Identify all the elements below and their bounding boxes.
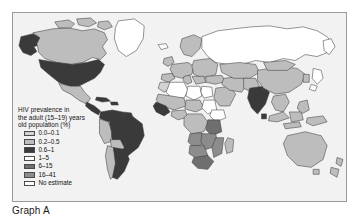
region-russia (202, 26, 333, 65)
legend-label-1: 0.2–0.5 (38, 139, 59, 146)
region-canada-arctic-1 (55, 20, 75, 28)
legend-item-0: 0.0–0.1 (24, 130, 118, 138)
legend-label-6: No estimate (38, 180, 72, 187)
legend-swatch-4 (24, 164, 35, 169)
region-balkans (192, 76, 206, 84)
region-greenland (114, 19, 144, 57)
region-kenya-tanzania (206, 120, 222, 136)
region-japan-south (309, 84, 317, 91)
legend-swatch-1 (24, 139, 35, 144)
region-mexico (59, 83, 91, 104)
legend-items: 0.0–0.1 0.2–0.5 0.6–1 1–5 6–15 16–41 (18, 130, 118, 187)
legend-item-5: 16–41 (24, 171, 118, 179)
region-new-guinea (306, 116, 327, 126)
region-libya (186, 86, 202, 100)
region-south-africa (192, 155, 214, 169)
legend-swatch-3 (24, 156, 35, 161)
region-indonesia-java (283, 122, 301, 129)
legend-label-5: 16–41 (38, 172, 56, 179)
region-canada (33, 28, 108, 65)
region-new-zealand-south (330, 167, 339, 177)
region-indonesia-borneo (289, 112, 303, 122)
legend-swatch-6 (24, 181, 35, 186)
region-japan (312, 68, 323, 84)
legend-item-2: 0.6–1 (24, 146, 118, 154)
region-madagascar (225, 138, 234, 154)
legend-title-line-3: old population (%) (18, 121, 118, 129)
region-tasmania (313, 169, 319, 174)
region-canada-arctic-3 (97, 21, 112, 30)
figure-caption: Graph A (12, 205, 50, 217)
legend-item-4: 6–15 (24, 163, 118, 171)
region-sri-lanka (262, 114, 267, 119)
legend-item-6: No estimate (24, 179, 118, 187)
region-australia (283, 132, 327, 168)
region-india (248, 86, 270, 114)
legend-swatch-5 (24, 172, 35, 177)
region-indonesia-sumatra (268, 112, 289, 122)
legend-swatch-0 (24, 131, 35, 136)
region-central-africa (184, 114, 208, 134)
region-southeast-asia (271, 94, 289, 112)
legend-label-4: 6–15 (38, 163, 52, 170)
region-egypt (201, 86, 213, 98)
region-caribbean-hispaniola (110, 102, 118, 105)
legend-item-1: 0.2–0.5 (24, 138, 118, 146)
region-korea (303, 74, 309, 82)
region-caribbean-cuba (96, 97, 111, 102)
legend-label-0: 0.0–0.1 (38, 130, 59, 137)
region-niger-chad (185, 100, 204, 112)
legend-item-3: 1–5 (24, 155, 118, 163)
legend-label-2: 0.6–1 (38, 147, 54, 154)
region-central-asia (220, 62, 260, 78)
region-eastern-europe (192, 59, 218, 79)
region-iceland (158, 44, 168, 50)
legend-swatch-2 (24, 147, 35, 152)
region-canada-arctic-2 (77, 18, 97, 27)
figure-panel: HIV prevalence in the adult (15–19) year… (12, 12, 347, 202)
map-legend: HIV prevalence in the adult (15–19) year… (18, 106, 118, 188)
region-scandinavia (180, 35, 202, 57)
legend-title-line-2: the adult (15–19) years (18, 114, 118, 122)
region-new-zealand-north (336, 157, 343, 166)
legend-title-line-1: HIV prevalence in (18, 106, 118, 114)
legend-label-3: 1–5 (38, 155, 49, 162)
